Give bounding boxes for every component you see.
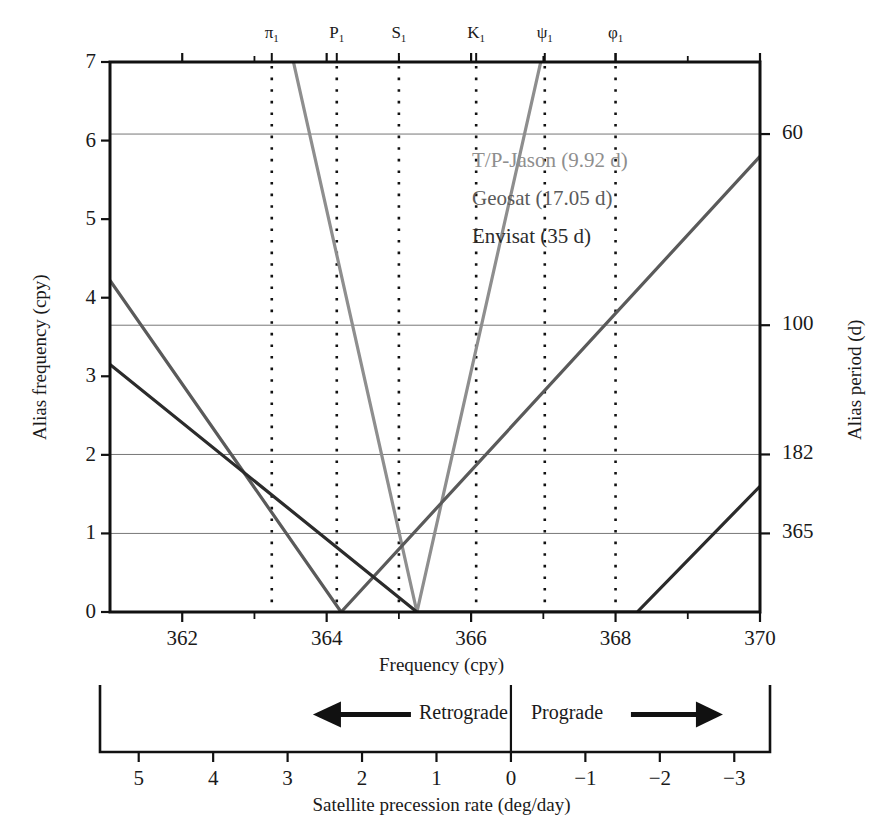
x-axis-tick-label: 366	[426, 628, 516, 649]
series-line	[110, 156, 760, 612]
y-axis-tick-label: 6	[48, 130, 96, 151]
x-axis-tick-label: 364	[282, 628, 372, 649]
tidal-constituent-label: P1	[311, 24, 363, 44]
y2-axis-title: Alias period (d)	[845, 320, 864, 440]
y2-axis-tick-label: 182	[782, 442, 814, 463]
precession-tick-label: 0	[471, 768, 551, 789]
y-axis-tick-label: 2	[48, 444, 96, 465]
tidal-constituent-label: ψ1	[519, 24, 571, 44]
y-axis-tick-label: 3	[48, 365, 96, 386]
precession-tick-label: −2	[620, 768, 700, 789]
y-axis-title: Alias frequency (cpy)	[30, 274, 49, 440]
retrograde-arrow-head	[313, 702, 341, 728]
alias-frequency-figure: 0123456760100182365362364366368370π1P1S1…	[0, 0, 883, 834]
tidal-constituent-label: φ1	[590, 24, 642, 44]
precession-tick-label: −3	[694, 768, 774, 789]
series-line	[110, 0, 760, 612]
x-axis-tick-label: 362	[137, 628, 227, 649]
y2-axis-tick-label: 60	[782, 122, 803, 143]
y-axis-tick-label: 4	[48, 287, 96, 308]
y-axis-tick-label: 7	[48, 51, 96, 72]
precession-axis-title: Satellite precession rate (deg/day)	[0, 795, 883, 814]
x-axis-tick-label: 368	[571, 628, 661, 649]
precession-tick-label: 3	[248, 768, 328, 789]
precession-tick-label: −1	[545, 768, 625, 789]
y-axis-tick-label: 5	[48, 208, 96, 229]
precession-tick-label: 5	[99, 768, 179, 789]
tidal-constituent-label: π1	[246, 24, 298, 44]
series-line	[110, 365, 760, 613]
legend-entry-1: T/P-Jason (9.92 d)	[472, 150, 628, 171]
y-axis-tick-label: 1	[48, 522, 96, 543]
y-axis-tick-label: 0	[48, 601, 96, 622]
x-axis-title: Frequency (cpy)	[0, 655, 883, 674]
x-axis-tick-label: 370	[715, 628, 805, 649]
y2-axis-tick-label: 365	[782, 521, 814, 542]
legend-entry-2: Geosat (17.05 d)	[472, 188, 613, 209]
retrograde-label: Retrograde	[419, 702, 508, 722]
precession-tick-label: 1	[396, 768, 476, 789]
tidal-constituent-label: S1	[373, 24, 425, 44]
y2-axis-tick-label: 100	[782, 313, 814, 334]
precession-tick-label: 4	[173, 768, 253, 789]
precession-tick-label: 2	[322, 768, 402, 789]
prograde-label: Prograde	[531, 702, 603, 722]
prograde-arrow-head	[696, 702, 723, 728]
tidal-constituent-label: K1	[450, 24, 502, 44]
legend-entry-3: Envisat (35 d)	[472, 226, 591, 247]
